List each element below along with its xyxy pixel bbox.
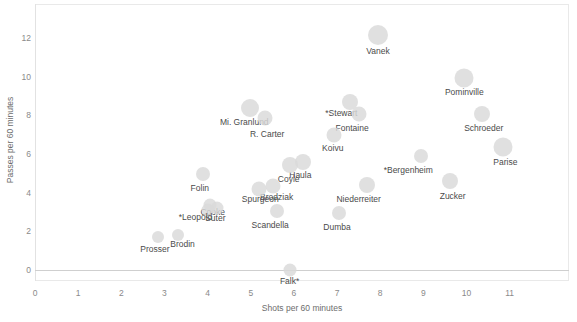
data-point-bubble[interactable] (282, 157, 298, 173)
data-point-bubble[interactable] (283, 263, 296, 276)
data-point-label: Schroeder (464, 123, 503, 133)
x-tick-label: 6 (292, 288, 297, 298)
plot-area (35, 4, 569, 281)
y-tick-label: 4 (7, 188, 31, 198)
y-axis-spine (35, 4, 36, 281)
x-tick-label: 7 (335, 288, 340, 298)
x-tick-label: 8 (378, 288, 383, 298)
data-point-label: Spurgeon (242, 194, 279, 204)
data-point-bubble[interactable] (442, 173, 458, 189)
x-tick-label: 0 (33, 288, 38, 298)
scatter-chart: 024681012 01234567891011 VanekPominville… (0, 0, 577, 322)
x-tick-label: 9 (421, 288, 426, 298)
data-point-bubble[interactable] (270, 204, 284, 218)
x-axis-title: Shots per 60 minutes (262, 303, 342, 313)
data-point-bubble[interactable] (295, 154, 311, 170)
y-tick-label: 12 (7, 33, 31, 43)
data-point-label: Coyle (278, 174, 300, 184)
x-tick-label: 11 (505, 288, 514, 298)
data-point-label: Pominville (445, 87, 484, 97)
y-axis-title: Passes per 60 minutes (5, 97, 15, 183)
data-point-bubble[interactable] (332, 206, 346, 220)
data-point-label: Brodin (170, 239, 195, 249)
x-tick-label: 5 (248, 288, 253, 298)
data-point-label: Prosser (140, 244, 169, 254)
x-tick-label: 3 (162, 288, 167, 298)
data-point-label: Scandella (251, 220, 288, 230)
zero-baseline (35, 270, 569, 271)
y-tick-label: 10 (7, 72, 31, 82)
y-tick-label: 0 (7, 265, 31, 275)
x-tick-label: 1 (76, 288, 81, 298)
data-point-bubble[interactable] (474, 106, 490, 122)
data-point-bubble[interactable] (368, 25, 388, 45)
data-point-bubble[interactable] (351, 107, 366, 122)
data-point-bubble[interactable] (327, 127, 342, 142)
data-point-bubble[interactable] (196, 167, 210, 181)
data-point-bubble[interactable] (257, 111, 272, 126)
data-point-label: Vanek (366, 46, 389, 56)
data-point-label: Falk* (280, 276, 299, 286)
data-point-label: Dumba (323, 222, 350, 232)
data-point-label: Niederreiter (336, 194, 380, 204)
data-point-label: Koivu (322, 143, 343, 153)
x-tick-label: 2 (119, 288, 124, 298)
data-point-bubble[interactable] (152, 231, 164, 243)
data-point-bubble[interactable] (359, 177, 375, 193)
y-tick-label: 2 (7, 226, 31, 236)
data-point-bubble[interactable] (241, 99, 259, 117)
data-point-label: *Bergenheim (384, 165, 433, 175)
data-point-bubble[interactable] (494, 138, 513, 157)
data-point-bubble[interactable] (414, 149, 428, 163)
data-point-label: Folin (191, 183, 209, 193)
x-tick-label: 10 (462, 288, 471, 298)
x-tick-label: 4 (205, 288, 210, 298)
data-point-label: Zucker (440, 191, 466, 201)
data-point-bubble[interactable] (455, 68, 474, 87)
data-point-label: R. Carter (250, 129, 284, 139)
data-point-label: Parise (493, 157, 517, 167)
data-point-label: *Leopold (179, 212, 213, 222)
